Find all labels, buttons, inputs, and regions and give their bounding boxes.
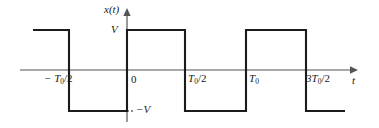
tick-label-t0-half: T0/2 (188, 73, 206, 84)
tick-neg-t0-half-main: − T (44, 72, 60, 84)
square-wave-figure: x(t) V −V 0 − T0/2 T0/2 T0 3T0/2 t (0, 0, 379, 128)
v-positive-label: V (111, 24, 118, 35)
t-axis-label: t (352, 75, 355, 86)
t-axis-arrowhead (350, 66, 358, 74)
tick-t0-half-sub: 0 (194, 77, 198, 86)
origin-label: 0 (131, 74, 137, 85)
tick-label-neg-t0-half: − T0/2 (44, 73, 73, 84)
tick-label-3t0-half: 3T0/2 (306, 73, 330, 84)
tick-t0-sub: 0 (255, 77, 259, 86)
tick-neg-t0-half-sub: 0 (60, 77, 64, 86)
tick-3t0-half-sub: 0 (318, 77, 322, 86)
tick-3t0-half-main: 3T (306, 72, 318, 84)
tick-label-t0: T0 (249, 73, 259, 84)
v-negative-label: −V (136, 104, 150, 115)
tick-3t0-half-tail: /2 (321, 72, 330, 84)
waveform-canvas (0, 0, 379, 128)
tick-neg-t0-half-tail: /2 (64, 72, 73, 84)
x-axis-label: x(t) (104, 4, 119, 15)
tick-t0-half-tail: /2 (198, 72, 207, 84)
x-axis-arrowhead (123, 8, 130, 16)
